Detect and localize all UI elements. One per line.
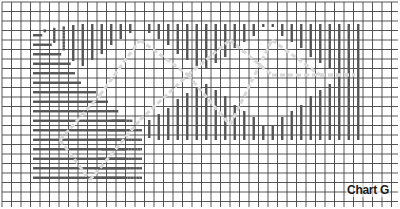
chart-label: Chart G <box>346 183 390 197</box>
pattern-chart <box>0 0 400 209</box>
